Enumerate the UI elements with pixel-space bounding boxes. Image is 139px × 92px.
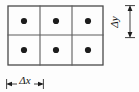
node-dot-r0c1 (53, 18, 59, 24)
node-dot-r1c0 (21, 47, 27, 53)
delta-x-label: Δx (18, 74, 30, 86)
node-dot-r1c2 (85, 47, 91, 53)
node-dot-r1c1 (53, 47, 59, 53)
grid-spacing-figure: Δy Δx (0, 0, 139, 92)
figure-canvas: Δy Δx (0, 0, 139, 92)
node-dot-r0c2 (85, 18, 91, 24)
delta-y-label: Δy (108, 16, 120, 28)
node-dot-r0c0 (21, 18, 27, 24)
